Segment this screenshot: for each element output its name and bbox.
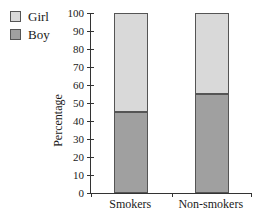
- y-tick-label-40: 40: [54, 115, 84, 127]
- y-tick-label-10: 10: [54, 169, 84, 181]
- y-tick-label-20: 20: [54, 151, 84, 163]
- plot-area: 0102030405060708090100: [90, 13, 252, 194]
- legend-item-boy: Boy: [10, 28, 50, 41]
- legend-swatch-boy: [10, 29, 21, 40]
- y-tick-10: [87, 175, 94, 176]
- stacked-bar-chart: GirlBoy Percentage 010203040506070809010…: [0, 0, 262, 218]
- y-tick-80: [87, 49, 94, 50]
- y-tick-90: [87, 31, 94, 32]
- legend-item-girl: Girl: [10, 10, 50, 23]
- y-tick-70: [87, 67, 94, 68]
- y-tick-60: [87, 85, 94, 86]
- y-tick-label-0: 0: [54, 187, 84, 199]
- y-tick-label-80: 80: [54, 43, 84, 55]
- legend-label-boy: Boy: [28, 28, 50, 41]
- bar-non-smokers-girl-segment: [195, 13, 229, 94]
- y-tick-label-30: 30: [54, 133, 84, 145]
- y-tick-label-100: 100: [54, 7, 84, 19]
- y-tick-30: [87, 139, 94, 140]
- legend-label-girl: Girl: [28, 10, 49, 23]
- bar-non-smokers: [195, 13, 229, 193]
- legend: GirlBoy: [10, 10, 50, 46]
- legend-swatch-girl: [10, 11, 21, 22]
- y-tick-20: [87, 157, 94, 158]
- bar-smokers-boy-segment: [114, 112, 148, 193]
- y-tick-label-50: 50: [54, 97, 84, 109]
- y-tick-label-70: 70: [54, 61, 84, 73]
- bar-smokers-girl-segment: [114, 13, 148, 112]
- y-tick-100: [87, 13, 94, 14]
- y-tick-label-90: 90: [54, 25, 84, 37]
- y-tick-40: [87, 121, 94, 122]
- x-category-label-non-smokers: Non-smokers: [166, 197, 256, 212]
- y-tick-50: [87, 103, 94, 104]
- y-tick-label-60: 60: [54, 79, 84, 91]
- bar-non-smokers-boy-segment: [195, 94, 229, 193]
- bar-smokers: [114, 13, 148, 193]
- x-category-label-smokers: Smokers: [85, 197, 175, 212]
